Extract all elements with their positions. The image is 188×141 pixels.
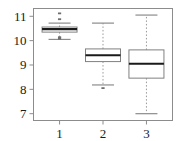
boxplot-canvas: 7891011123 [0,0,188,140]
x-axis-tick-label: 1 [56,126,63,141]
y-axis-tick-label: 11 [14,9,27,24]
y-axis-tick-label: 7 [20,106,27,121]
y-axis-tick-label: 10 [14,33,27,48]
y-axis-tick-label: 8 [20,82,27,97]
y-axis-tick-label: 9 [20,57,27,72]
x-axis-tick-label: 2 [100,126,107,141]
boxplot-figure: 7891011123 [0,0,188,140]
x-axis-tick-label: 3 [143,126,150,141]
